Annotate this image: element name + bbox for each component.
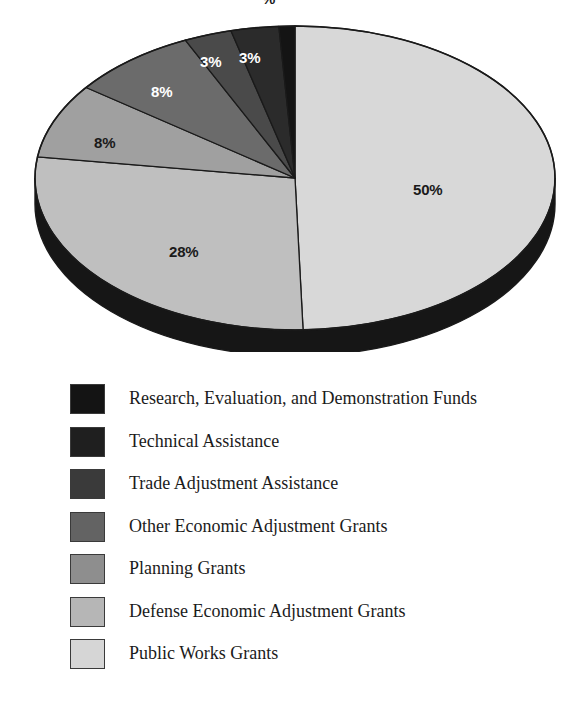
legend-item-defense-economic: Defense Economic Adjustment Grants (70, 591, 540, 634)
legend-swatch-research (70, 384, 105, 414)
chart-legend: Research, Evaluation, and Demonstration … (70, 378, 540, 676)
legend-label-planning-grants: Planning Grants (129, 559, 246, 579)
slice-label-3-technical: 3% (239, 50, 260, 65)
legend-item-trade-adjustment: Trade Adjustment Assistance (70, 463, 540, 506)
legend-label-research: Research, Evaluation, and Demonstration … (129, 389, 477, 409)
legend-swatch-public-works (70, 639, 105, 669)
legend-label-public-works: Public Works Grants (129, 644, 278, 664)
legend-label-other-economic: Other Economic Adjustment Grants (129, 517, 387, 537)
legend-label-defense-economic: Defense Economic Adjustment Grants (129, 602, 405, 622)
pie-chart: 50% 28% 8% 8% 3% 3% % (0, 0, 579, 352)
pie-chart-graphic (0, 0, 579, 352)
legend-label-technical-assistance: Technical Assistance (129, 432, 279, 452)
legend-item-technical-assistance: Technical Assistance (70, 421, 540, 464)
legend-label-trade-adjustment: Trade Adjustment Assistance (129, 474, 338, 494)
legend-item-other-economic: Other Economic Adjustment Grants (70, 506, 540, 549)
legend-item-public-works: Public Works Grants (70, 633, 540, 676)
slice-label-50: 50% (413, 182, 442, 197)
legend-swatch-planning-grants (70, 554, 105, 584)
slice-label-3-trade: 3% (200, 54, 221, 69)
slice-label-8-other: 8% (151, 84, 172, 99)
slice-label-research-clipped: % (262, 0, 275, 6)
slice-label-28: 28% (169, 244, 198, 259)
legend-swatch-defense-economic (70, 597, 105, 627)
legend-swatch-other-economic (70, 512, 105, 542)
legend-swatch-trade-adjustment (70, 469, 105, 499)
legend-item-planning-grants: Planning Grants (70, 548, 540, 591)
slice-label-8-planning: 8% (94, 135, 115, 150)
legend-item-research: Research, Evaluation, and Demonstration … (70, 378, 540, 421)
legend-swatch-technical-assistance (70, 427, 105, 457)
